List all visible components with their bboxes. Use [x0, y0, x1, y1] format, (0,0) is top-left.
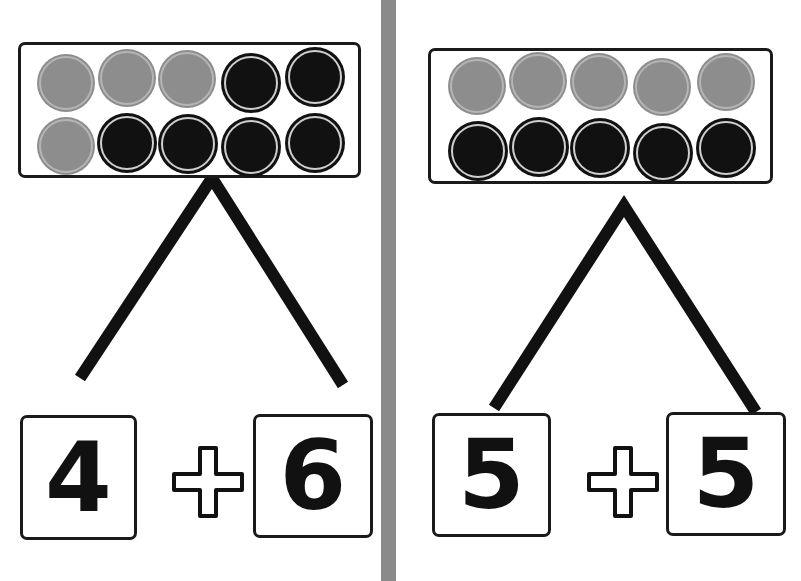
counter-gray: [511, 54, 565, 108]
addend-value: 5: [458, 427, 525, 523]
bond-branch-right-panel: [494, 206, 756, 412]
counter-gray: [635, 60, 689, 114]
addend-box-right: 5: [666, 412, 786, 536]
bond-branch-left-panel: [80, 178, 343, 385]
counter-gray: [160, 52, 214, 106]
addend-value: 5: [693, 426, 760, 522]
addend-value: 6: [280, 428, 347, 524]
counter-black: [699, 121, 753, 175]
counter-gray: [100, 51, 154, 105]
counter-black: [100, 116, 154, 170]
addend-value: 4: [45, 430, 112, 526]
counter-black: [512, 120, 566, 174]
counter-black: [636, 126, 690, 180]
plus-icon-left: [174, 448, 242, 516]
counter-gray: [572, 55, 626, 109]
counter-gray: [450, 59, 504, 113]
counter-gray: [39, 119, 93, 173]
counter-gray: [39, 56, 93, 110]
counter-gray: [699, 55, 753, 109]
plus-icon-right: [589, 448, 657, 516]
counter-black: [161, 117, 215, 171]
addend-box-right: 6: [253, 414, 373, 538]
addend-box-left: 5: [432, 413, 551, 537]
counter-black: [224, 120, 278, 174]
counter-black: [224, 56, 278, 110]
addend-box-left: 4: [20, 415, 137, 540]
counter-black: [573, 121, 627, 175]
counter-black: [288, 50, 342, 104]
counter-black: [288, 116, 342, 170]
counter-black: [451, 124, 505, 178]
